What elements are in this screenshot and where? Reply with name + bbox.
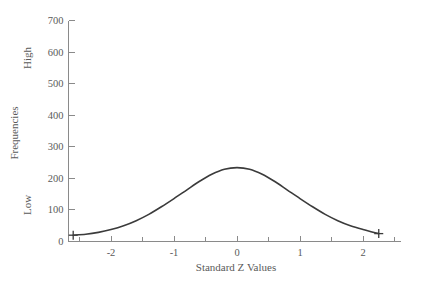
y-axis-tick-label: 100 xyxy=(48,204,64,215)
x-axis-tick-label: -1 xyxy=(170,247,179,258)
y-axis-tick-label: 400 xyxy=(48,110,64,121)
x-axis-ticks xyxy=(111,236,363,242)
distribution-curve xyxy=(73,168,379,236)
x-axis-tick-label: 0 xyxy=(234,247,239,258)
curve-endpoint-markers xyxy=(69,229,384,240)
y-axis-tick-labels: 0100200300400500600700 xyxy=(48,15,64,247)
x-axis-tick-label: 2 xyxy=(360,247,365,258)
y-axis-tick-label: 0 xyxy=(58,236,63,247)
x-axis-title: Standard Z Values xyxy=(196,261,276,273)
y-axis-high-label: High xyxy=(21,47,33,70)
y-axis-ticks xyxy=(69,21,75,242)
y-axis-tick-label: 700 xyxy=(48,15,64,26)
plot-axes xyxy=(69,21,401,242)
y-axis-tick-label: 500 xyxy=(48,78,64,89)
normal-distribution-chart: 0100200300400500600700 -2-1012 Standard … xyxy=(0,0,421,285)
x-axis-tick-labels: -2-1012 xyxy=(107,247,366,258)
y-axis-tick-label: 300 xyxy=(48,141,64,152)
y-axis-tick-label: 200 xyxy=(48,173,64,184)
y-axis-low-label: Low xyxy=(21,195,33,215)
y-axis-title: Frequencies xyxy=(8,106,20,159)
y-axis-tick-label: 600 xyxy=(48,47,64,58)
x-axis-tick-label: -2 xyxy=(107,247,116,258)
x-axis-tick-label: 1 xyxy=(297,247,302,258)
